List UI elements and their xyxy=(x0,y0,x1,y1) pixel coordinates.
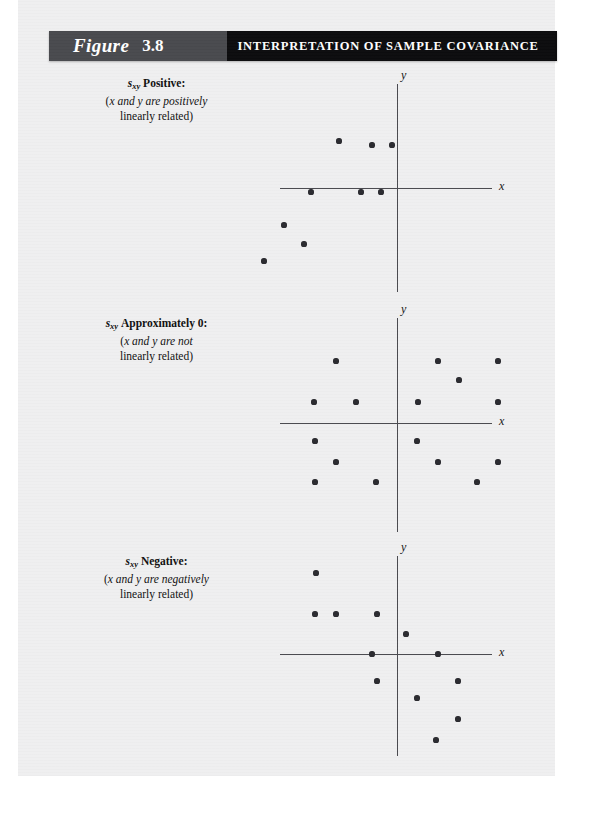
data-point xyxy=(333,611,338,616)
x-axis-label: x xyxy=(499,179,504,194)
data-point xyxy=(333,358,338,363)
data-point xyxy=(373,479,378,484)
caption-line-3: linearly related) xyxy=(49,587,264,602)
caption-status: Negative: xyxy=(141,555,188,567)
caption-line-2-text: x and y are negatively xyxy=(108,573,209,585)
panel-caption-negative: sxy Negative: (x and y are negatively li… xyxy=(49,554,264,602)
data-point xyxy=(455,678,460,683)
data-point xyxy=(474,479,479,484)
caption-line-2-text: x and y are positively xyxy=(109,95,207,107)
scatter-plot-negative: xy xyxy=(274,548,536,763)
figure-label-box: Figure 3.8 xyxy=(49,31,227,61)
figure-word: Figure xyxy=(73,35,129,57)
y-axis-label: y xyxy=(401,540,406,555)
caption-line-3: linearly related) xyxy=(49,109,264,124)
caption-line-2: (x and y are not xyxy=(49,334,264,349)
figure-header-band: Figure 3.8 INTERPRETATION OF SAMPLE COVA… xyxy=(49,31,557,61)
data-point xyxy=(389,142,394,147)
panel-caption-positive: sxy Positive: (x and y are positively li… xyxy=(49,76,264,124)
caption-status: Positive: xyxy=(143,77,185,89)
figure-title: INTERPRETATION OF SAMPLE COVARIANCE xyxy=(237,39,538,54)
covariance-subscript: xy xyxy=(130,559,138,569)
y-axis-label: y xyxy=(401,302,406,317)
x-axis-line xyxy=(280,654,492,655)
caption-line-2: (x and y are negatively xyxy=(49,572,264,587)
data-point xyxy=(435,651,440,656)
y-axis-line xyxy=(397,84,398,292)
data-point xyxy=(312,611,317,616)
data-point xyxy=(358,189,363,194)
data-point xyxy=(333,459,338,464)
data-point xyxy=(353,399,358,404)
figure-panel-positive: sxy Positive: (x and y are positively li… xyxy=(49,70,557,310)
data-point xyxy=(312,438,317,443)
data-point xyxy=(369,651,374,656)
data-point xyxy=(414,695,419,700)
figure-title-box: INTERPRETATION OF SAMPLE COVARIANCE xyxy=(227,31,557,61)
x-axis-label: x xyxy=(499,414,504,429)
data-point xyxy=(415,399,420,404)
figure-number: 3.8 xyxy=(142,36,163,56)
data-point xyxy=(311,399,316,404)
data-point xyxy=(374,611,379,616)
scatter-plot-zero: xy xyxy=(274,310,536,545)
data-point xyxy=(281,222,286,227)
data-point xyxy=(336,138,341,143)
figure-panel-zero: sxy Approximately 0: (x and y are not li… xyxy=(49,310,557,545)
caption-title: sxy Approximately 0: xyxy=(49,316,264,334)
caption-line-3: linearly related) xyxy=(49,349,264,364)
data-point xyxy=(435,358,440,363)
scanned-page: Figure 3.8 INTERPRETATION OF SAMPLE COVA… xyxy=(18,0,555,776)
data-point xyxy=(308,189,313,194)
data-point xyxy=(312,479,317,484)
caption-line-2: (x and y are positively xyxy=(49,94,264,109)
data-point xyxy=(414,438,419,443)
caption-title: sxy Negative: xyxy=(49,554,264,572)
data-point xyxy=(495,459,500,464)
y-axis-line xyxy=(397,318,398,532)
caption-title: sxy Positive: xyxy=(49,76,264,94)
y-axis-line xyxy=(397,556,398,756)
data-point xyxy=(433,737,438,742)
scatter-plot-positive: xy xyxy=(274,70,536,310)
data-point xyxy=(374,678,379,683)
x-axis-label: x xyxy=(499,645,504,660)
data-point xyxy=(403,631,408,636)
data-point xyxy=(369,142,374,147)
caption-status: Approximately 0: xyxy=(121,317,207,329)
data-point xyxy=(378,189,383,194)
y-axis-label: y xyxy=(401,68,406,83)
data-point xyxy=(435,459,440,464)
data-point xyxy=(455,716,460,721)
data-point xyxy=(495,399,500,404)
data-point xyxy=(495,358,500,363)
data-point xyxy=(301,241,306,246)
data-point xyxy=(261,258,266,263)
covariance-subscript: xy xyxy=(132,81,140,91)
figure-panel-negative: sxy Negative: (x and y are negatively li… xyxy=(49,548,557,763)
data-point xyxy=(313,570,318,575)
x-axis-line xyxy=(280,423,492,424)
panel-caption-zero: sxy Approximately 0: (x and y are not li… xyxy=(49,316,264,364)
covariance-subscript: xy xyxy=(110,321,118,331)
data-point xyxy=(456,377,461,382)
caption-line-2-text: x and y are not xyxy=(124,335,193,347)
